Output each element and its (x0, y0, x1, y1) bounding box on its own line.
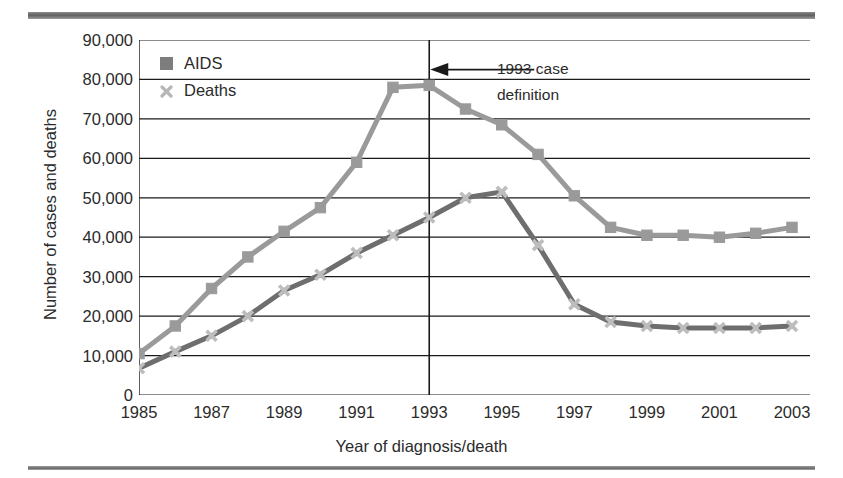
chart-legend: AIDS Deaths (160, 50, 320, 104)
data-point-square-marker (170, 321, 180, 331)
x-tick-label: 1999 (612, 404, 682, 421)
series-line-deaths (139, 192, 792, 368)
series-line-aids (139, 85, 792, 353)
legend-item-deaths: Deaths (160, 77, 320, 104)
data-point-square-marker (605, 222, 615, 232)
x-tick-label: 1985 (104, 404, 174, 421)
y-tick-label: 10,000 (49, 347, 133, 364)
y-tick-label: 90,000 (49, 32, 133, 49)
data-point-square-marker (569, 191, 579, 201)
data-point-square-marker (714, 232, 724, 242)
x-tick-label: 2003 (757, 404, 827, 421)
annotation-arrow-head-icon (430, 63, 448, 76)
square-marker-icon (160, 57, 173, 70)
data-point-square-marker (642, 230, 652, 240)
data-point-square-marker (460, 104, 470, 114)
y-tick-label: 40,000 (49, 229, 133, 246)
cross-marker-icon (160, 84, 173, 97)
figure-container: Number of cases and deaths Year of diagn… (0, 0, 843, 478)
y-tick-label: 20,000 (49, 308, 133, 325)
data-point-square-marker (206, 283, 216, 293)
data-point-square-marker (497, 120, 507, 130)
y-tick-label: 30,000 (49, 268, 133, 285)
x-tick-label: 1987 (177, 404, 247, 421)
y-tick-label: 80,000 (49, 71, 133, 88)
data-point-square-marker (787, 222, 797, 232)
y-tick-label: 0 (49, 387, 133, 404)
case-definition-annotation: 1993 case definition (497, 56, 687, 108)
bottom-divider-rule (28, 466, 815, 470)
data-point-square-marker (533, 149, 543, 159)
annotation-line-1: 1993 case (497, 56, 687, 82)
x-tick-label: 2001 (684, 404, 754, 421)
legend-label-deaths: Deaths (184, 81, 236, 100)
annotation-line-2: definition (497, 82, 687, 108)
x-axis-title: Year of diagnosis/death (0, 437, 843, 456)
data-point-square-marker (139, 348, 144, 358)
x-tick-label: 1993 (394, 404, 464, 421)
y-tick-label: 50,000 (49, 190, 133, 207)
y-axis-tick-labels: 90,00080,00070,00060,00050,00040,00030,0… (41, 40, 133, 395)
legend-label-aids: AIDS (184, 54, 223, 73)
data-point-square-marker (279, 226, 289, 236)
y-tick-label: 70,000 (49, 111, 133, 128)
y-tick-label: 60,000 (49, 150, 133, 167)
top-divider-rule (28, 12, 815, 19)
x-tick-label: 1997 (539, 404, 609, 421)
x-tick-label: 1989 (249, 404, 319, 421)
data-point-square-marker (678, 230, 688, 240)
data-point-square-marker (243, 252, 253, 262)
data-point-square-marker (751, 228, 761, 238)
data-point-square-marker (388, 82, 398, 92)
legend-item-aids: AIDS (160, 50, 320, 77)
data-point-square-marker (351, 157, 361, 167)
x-tick-label: 1991 (322, 404, 392, 421)
data-point-square-marker (424, 80, 434, 90)
data-point-square-marker (315, 202, 325, 212)
x-axis-tick-labels: 1985198719891991199319951997199920012003 (139, 404, 810, 430)
x-tick-label: 1995 (467, 404, 537, 421)
